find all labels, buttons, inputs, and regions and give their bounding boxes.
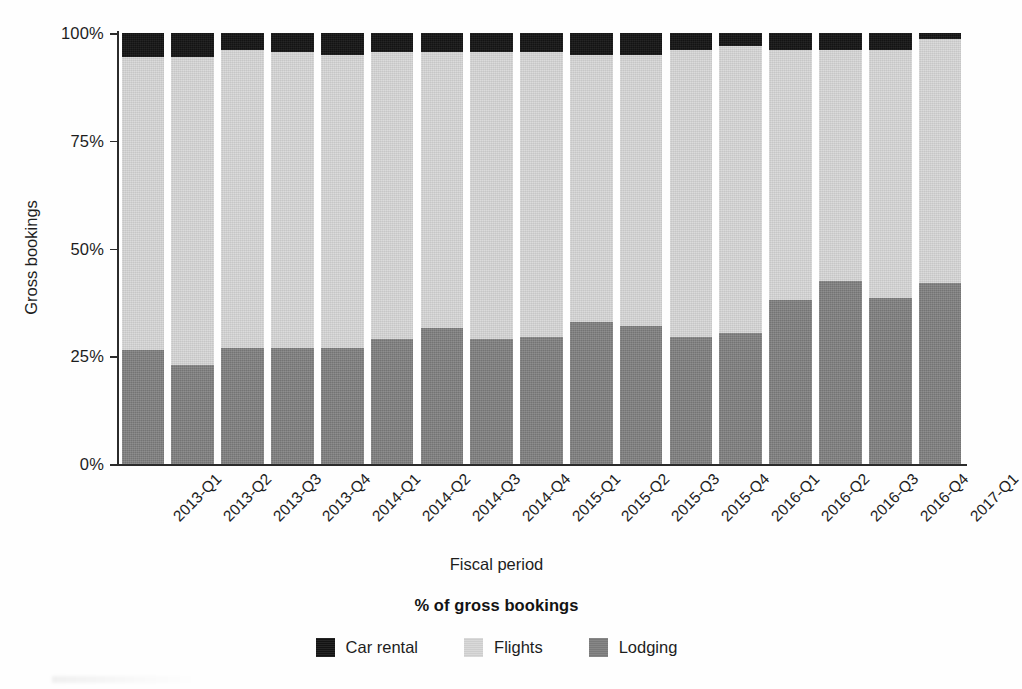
bar-segment-lodging[interactable] (470, 339, 513, 464)
y-tick-label: 25% (0, 347, 104, 366)
bar-2013-Q2[interactable] (171, 33, 214, 464)
bar-2014-Q4[interactable] (470, 33, 513, 464)
x-tick-label: 2014-Q1 (369, 470, 424, 525)
y-tick-mark (110, 464, 117, 466)
x-tick-label: 2016-Q4 (917, 470, 972, 525)
bar-segment-lodging[interactable] (670, 337, 713, 464)
bar-segment-flights[interactable] (470, 52, 513, 339)
bar-segment-lodging[interactable] (371, 339, 414, 464)
y-tick-mark (110, 249, 117, 251)
bar-segment-lodging[interactable] (122, 350, 165, 464)
bar-segment-flights[interactable] (122, 57, 165, 350)
bar-2015-Q3[interactable] (620, 33, 663, 464)
bar-2013-Q3[interactable] (221, 33, 264, 464)
bar-2015-Q4[interactable] (670, 33, 713, 464)
bar-segment-car-rental[interactable] (719, 33, 762, 46)
x-tick-label: 2013-Q3 (269, 470, 324, 525)
bar-segment-flights[interactable] (869, 50, 912, 298)
x-axis-tick-group: 2013-Q12013-Q22013-Q32013-Q42014-Q12014-… (118, 466, 965, 554)
bar-segment-flights[interactable] (271, 52, 314, 347)
bar-2014-Q1[interactable] (321, 33, 364, 464)
x-tick-label: 2014-Q3 (469, 470, 524, 525)
bar-segment-flights[interactable] (171, 57, 214, 365)
bar-2015-Q2[interactable] (570, 33, 613, 464)
bar-segment-lodging[interactable] (171, 365, 214, 464)
bar-2016-Q4[interactable] (869, 33, 912, 464)
plot-area (118, 33, 965, 464)
legend-title: % of gross bookings (0, 596, 993, 615)
bar-segment-car-rental[interactable] (122, 33, 165, 57)
bar-segment-flights[interactable] (221, 50, 264, 347)
bar-segment-car-rental[interactable] (869, 33, 912, 50)
bar-segment-lodging[interactable] (271, 348, 314, 464)
y-tick-label: 0% (0, 455, 104, 474)
bar-2016-Q2[interactable] (769, 33, 812, 464)
legend-label: Car rental (346, 638, 418, 657)
bar-segment-lodging[interactable] (520, 337, 563, 464)
bar-segment-car-rental[interactable] (769, 33, 812, 50)
bar-2013-Q4[interactable] (271, 33, 314, 464)
legend-item-lodging[interactable]: Lodging (589, 638, 678, 657)
bar-segment-car-rental[interactable] (371, 33, 414, 52)
legend-items: Car rentalFlightsLodging (0, 638, 993, 657)
bar-segment-lodging[interactable] (769, 300, 812, 464)
bar-segment-car-rental[interactable] (819, 33, 862, 50)
bar-segment-flights[interactable] (719, 46, 762, 333)
bar-segment-car-rental[interactable] (171, 33, 214, 57)
bar-segment-car-rental[interactable] (570, 33, 613, 55)
x-tick-label: 2013-Q1 (170, 470, 225, 525)
bar-segment-flights[interactable] (570, 55, 613, 322)
bar-segment-car-rental[interactable] (470, 33, 513, 52)
bar-segment-flights[interactable] (520, 52, 563, 336)
bar-segment-car-rental[interactable] (670, 33, 713, 50)
bar-segment-car-rental[interactable] (221, 33, 264, 50)
x-axis-title: Fiscal period (0, 555, 993, 574)
bar-segment-lodging[interactable] (321, 348, 364, 464)
bar-segment-flights[interactable] (620, 55, 663, 327)
bar-segment-lodging[interactable] (819, 281, 862, 464)
legend-item-flights[interactable]: Flights (464, 638, 543, 657)
bar-segment-flights[interactable] (371, 52, 414, 339)
bar-segment-flights[interactable] (819, 50, 862, 281)
x-tick-label: 2015-Q3 (668, 470, 723, 525)
bar-segment-car-rental[interactable] (620, 33, 663, 55)
bar-segment-lodging[interactable] (869, 298, 912, 464)
x-tick-label: 2015-Q4 (718, 470, 773, 525)
bar-segment-car-rental[interactable] (271, 33, 314, 52)
y-tick-mark (110, 356, 117, 358)
x-tick-label: 2013-Q4 (319, 470, 374, 525)
bar-2017-Q1[interactable] (919, 33, 962, 464)
bar-2016-Q3[interactable] (819, 33, 862, 464)
bar-segment-car-rental[interactable] (421, 33, 464, 52)
bar-segment-lodging[interactable] (620, 326, 663, 464)
y-tick-label: 75% (0, 131, 104, 150)
bar-segment-car-rental[interactable] (321, 33, 364, 55)
bar-segment-lodging[interactable] (719, 333, 762, 464)
bar-2015-Q1[interactable] (520, 33, 563, 464)
bar-segment-flights[interactable] (919, 39, 962, 283)
y-tick-mark (110, 141, 117, 143)
legend: % of gross bookings Car rentalFlightsLod… (0, 596, 993, 657)
bar-2013-Q1[interactable] (122, 33, 165, 464)
legend-label: Flights (494, 638, 543, 657)
x-tick-label: 2014-Q4 (518, 470, 573, 525)
legend-swatch-icon (589, 638, 608, 657)
bar-segment-lodging[interactable] (570, 322, 613, 464)
legend-item-car-rental[interactable]: Car rental (316, 638, 418, 657)
bar-segment-flights[interactable] (321, 55, 364, 348)
bar-2014-Q3[interactable] (421, 33, 464, 464)
bar-segment-car-rental[interactable] (520, 33, 563, 52)
bar-segment-lodging[interactable] (919, 283, 962, 464)
bar-2016-Q1[interactable] (719, 33, 762, 464)
bar-segment-lodging[interactable] (221, 348, 264, 464)
scan-artifact (52, 676, 197, 683)
bar-segment-lodging[interactable] (421, 328, 464, 464)
bar-2014-Q2[interactable] (371, 33, 414, 464)
bar-segment-flights[interactable] (769, 50, 812, 300)
legend-label: Lodging (619, 638, 678, 657)
x-tick-label: 2017-Q1 (967, 470, 1022, 525)
x-tick-label: 2013-Q2 (219, 470, 274, 525)
bar-segment-flights[interactable] (670, 50, 713, 337)
bar-segment-flights[interactable] (421, 52, 464, 328)
